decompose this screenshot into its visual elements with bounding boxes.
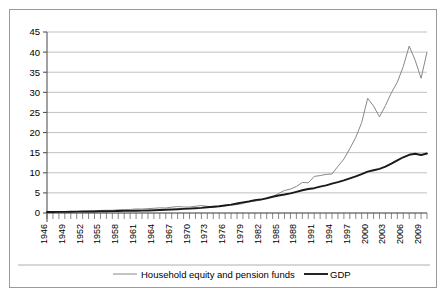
x-tick-label: 1997: [342, 224, 352, 244]
x-tick-label: 2003: [377, 224, 387, 244]
x-tick-label: 1982: [253, 224, 263, 244]
x-tick-label: 1970: [182, 224, 192, 244]
x-tick-label: 1946: [39, 224, 49, 244]
series-line-equity: [47, 46, 427, 212]
x-tick-label: 1985: [271, 224, 281, 244]
x-tick-label: 1991: [306, 224, 316, 244]
x-tick-label: 1958: [110, 224, 120, 244]
y-tick-label: 0: [35, 207, 40, 218]
x-tick-label: 1949: [57, 224, 67, 244]
y-axis: [43, 32, 47, 222]
data-series-group: [47, 46, 427, 212]
gridlines: [47, 32, 427, 213]
y-tick-label: 25: [29, 107, 40, 118]
y-tick-label: 20: [29, 127, 40, 138]
y-tick-label: 10: [29, 167, 40, 178]
x-tick-label: 1988: [288, 224, 298, 244]
x-tick-label: 1973: [199, 224, 209, 244]
x-tick-label: 1976: [217, 224, 227, 244]
y-tick-label: 40: [29, 47, 40, 58]
legend-label-gdp: GDP: [330, 269, 351, 280]
chart-plot-area: 051015202530354045 194619491952195519581…: [10, 10, 438, 289]
x-tick-label: 1964: [146, 224, 156, 244]
x-axis: [47, 213, 427, 219]
y-tick-label: 30: [29, 87, 40, 98]
x-tick-label: 1967: [164, 224, 174, 244]
y-tick-label: 5: [35, 187, 40, 198]
y-tick-label: 45: [29, 26, 40, 37]
x-tick-label: 2006: [395, 224, 405, 244]
line-chart: 051015202530354045 194619491952195519581…: [10, 10, 438, 289]
x-tick-label: 2000: [360, 224, 370, 244]
legend-label-equity: Household equity and pension funds: [141, 269, 295, 280]
x-tick-label: 2009: [413, 224, 423, 244]
x-tick-label: 1961: [128, 224, 138, 244]
chart-frame: 051015202530354045 194619491952195519581…: [9, 9, 437, 288]
x-axis-tick-labels: 1946194919521955195819611964196719701973…: [39, 224, 423, 244]
x-tick-label: 1952: [75, 224, 85, 244]
x-tick-label: 1979: [235, 224, 245, 244]
x-tick-label: 1955: [92, 224, 102, 244]
y-axis-tick-labels: 051015202530354045: [29, 26, 40, 218]
y-tick-label: 15: [29, 147, 40, 158]
series-line-gdp: [47, 153, 427, 212]
y-tick-label: 35: [29, 67, 40, 78]
chart-legend: Household equity and pension fundsGDP: [18, 265, 430, 280]
x-tick-label: 1994: [324, 224, 334, 244]
